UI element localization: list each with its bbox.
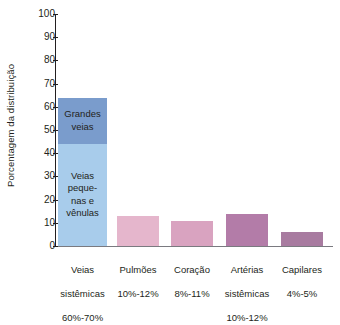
y-tick-mark-90 <box>53 37 58 38</box>
category-label-line-3: 10%-12% <box>217 312 277 324</box>
category-label-line-2: 4%-5% <box>274 288 330 300</box>
bar-veias-sistemicas: Grandes veias Veias peque- nas e vênulas <box>58 98 107 247</box>
bar-capilares <box>281 232 323 246</box>
y-tick-mark-80 <box>53 60 58 61</box>
y-tick-mark-100 <box>53 14 58 15</box>
bar-segment-veias-pequenas-venulas: Veias peque- nas e vênulas <box>58 144 107 246</box>
category-label-veias-sistemicas: Veias sistêmicas 60%-70% <box>53 252 112 325</box>
category-label-line-1: Pulmões <box>110 264 166 276</box>
category-label-line-2: sistêmicas <box>217 288 277 300</box>
bar-segment-label-grandes-veias: Grandes veias <box>64 108 100 133</box>
x-axis-line <box>55 246 333 247</box>
category-label-line-1: Coração <box>164 264 220 276</box>
category-label-line-3: 60%-70% <box>53 312 112 324</box>
category-label-line-1: Capilares <box>274 264 330 276</box>
bar-segment-grandes-veias: Grandes veias <box>58 98 107 144</box>
category-label-line-2: sistêmicas <box>53 288 112 300</box>
y-tick-mark-0 <box>53 246 58 247</box>
category-label-capilares: Capilares 4%-5% <box>274 252 330 312</box>
category-label-arterias-sistemicas: Artérias sistêmicas 10%-12% <box>217 252 277 325</box>
y-tick-mark-70 <box>53 84 58 85</box>
bar-pulmoes <box>117 216 159 246</box>
bar-coracao <box>171 221 213 247</box>
category-label-coracao: Coração 8%-11% <box>164 252 220 312</box>
bar-segment-label-veias-pequenas-venulas: Veias peque- nas e vênulas <box>66 170 99 220</box>
category-label-line-1: Veias <box>53 264 112 276</box>
bar-arterias-sistemicas <box>226 214 268 247</box>
category-label-line-2: 8%-11% <box>164 288 220 300</box>
category-label-pulmoes: Pulmões 10%-12% <box>110 252 166 312</box>
category-label-line-2: 10%-12% <box>110 288 166 300</box>
category-label-line-1: Artérias <box>217 264 277 276</box>
